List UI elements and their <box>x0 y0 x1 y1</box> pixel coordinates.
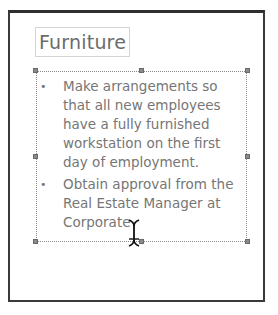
bullet-list[interactable]: • Make arrangements so that all new empl… <box>37 77 247 235</box>
bullet-marker: • <box>40 175 47 194</box>
resize-handle-top-right[interactable] <box>245 68 250 73</box>
bullet-item[interactable]: • Make arrangements so that all new empl… <box>37 77 247 172</box>
bullet-marker: • <box>40 77 47 96</box>
resize-handle-bottom-left[interactable] <box>33 239 38 244</box>
i-beam-cursor-icon <box>127 219 141 247</box>
bullet-text: Make arrangements so that all new employ… <box>63 78 221 170</box>
title-placeholder[interactable]: Furniture <box>35 27 130 57</box>
bullet-text: Obtain approval from the Real Estate Man… <box>63 176 233 230</box>
bullet-item[interactable]: • Obtain approval from the Real Estate M… <box>37 175 247 232</box>
resize-handle-bottom-right[interactable] <box>245 239 250 244</box>
resize-handle-top-center[interactable] <box>139 68 144 73</box>
resize-handle-top-left[interactable] <box>33 68 38 73</box>
slide-title: Furniture <box>39 31 126 53</box>
